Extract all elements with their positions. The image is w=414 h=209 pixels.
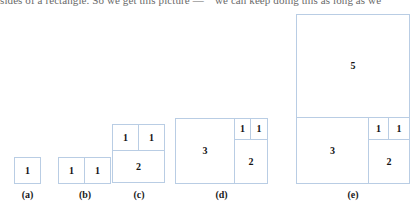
square-1: 1 bbox=[14, 157, 41, 184]
figure-a: 1 bbox=[14, 157, 41, 184]
square-2-lower-right: 2 bbox=[368, 139, 410, 184]
square-1-top-left: 1 bbox=[234, 118, 251, 140]
figure-e: 5 3 1 1 2 bbox=[296, 14, 410, 184]
square-3-left: 3 bbox=[175, 118, 235, 184]
figure-c: 1 1 2 bbox=[112, 124, 166, 184]
caption-c: (c) bbox=[112, 190, 166, 200]
figure-b: 1 1 bbox=[58, 157, 112, 184]
caption-d: (d) bbox=[175, 190, 268, 200]
figure-canvas: sides of a rectangle. So we get this pic… bbox=[0, 0, 414, 209]
square-2-lower-right: 2 bbox=[234, 139, 268, 184]
square-1-top-right: 1 bbox=[250, 118, 268, 140]
caption-e: (e) bbox=[296, 190, 410, 200]
caption-b: (b) bbox=[58, 190, 112, 200]
figure-d: 3 1 1 2 bbox=[175, 118, 268, 184]
square-5-top: 5 bbox=[296, 14, 410, 118]
square-1-top-right: 1 bbox=[138, 124, 165, 151]
caption-a: (a) bbox=[14, 190, 41, 200]
square-2-bottom: 2 bbox=[112, 150, 165, 183]
page-bleed-text-right: we can keep doing this as long as we bbox=[215, 0, 414, 10]
square-1-top-left: 1 bbox=[368, 117, 389, 140]
square-1-left: 1 bbox=[58, 157, 85, 184]
square-3-lower-left: 3 bbox=[296, 117, 369, 184]
square-1-top-left: 1 bbox=[112, 124, 139, 151]
square-1-right: 1 bbox=[84, 157, 111, 184]
square-1-top-right: 1 bbox=[388, 117, 410, 140]
page-bleed-text-left: sides of a rectangle. So we get this pic… bbox=[0, 0, 215, 10]
